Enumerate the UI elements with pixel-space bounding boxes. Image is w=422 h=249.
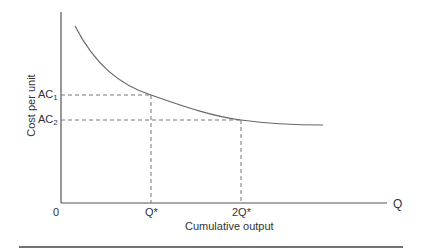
x-axis-end-label: Q	[393, 198, 402, 210]
origin-label: 0	[53, 207, 59, 218]
ac1-label: AC1	[38, 89, 58, 102]
ac2-subscript: 2	[53, 118, 57, 127]
ac2-text: AC	[38, 113, 53, 125]
y-axis-label: Cost per unit	[26, 71, 37, 141]
ac2-label: AC2	[38, 114, 58, 127]
2qstar-label: 2Q*	[232, 207, 251, 218]
ac1-subscript: 1	[53, 93, 57, 102]
chart-canvas	[0, 0, 422, 249]
x-axis-label: Cumulative output	[185, 221, 274, 232]
qstar-label: Q*	[145, 207, 158, 218]
ac1-text: AC	[38, 88, 53, 100]
learning-curve	[75, 26, 323, 125]
